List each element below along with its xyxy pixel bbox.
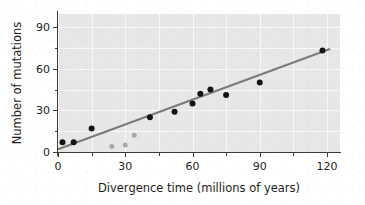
data-point (223, 92, 229, 98)
scatter-plot-figure: 0306090120 0306090 Divergence time (mill… (0, 0, 365, 205)
x-tick-label: 120 (317, 160, 338, 173)
y-tick-label: 0 (43, 146, 50, 159)
y-tick-label: 60 (36, 63, 50, 76)
x-tick-label: 90 (253, 160, 267, 173)
data-point (132, 133, 137, 138)
x-tick-label: 60 (186, 160, 200, 173)
y-axis-title: Number of mutations (10, 22, 24, 145)
data-point (89, 125, 95, 131)
data-point (123, 143, 128, 148)
data-point (190, 100, 196, 106)
x-axis-tick-labels: 0306090120 (55, 160, 338, 173)
x-tick-label: 30 (118, 160, 132, 173)
x-axis-title: Divergence time (millions of years) (98, 181, 300, 195)
chart-canvas: 0306090120 0306090 Divergence time (mill… (0, 0, 365, 205)
data-point (257, 80, 263, 86)
y-tick-label: 90 (36, 21, 50, 34)
data-point (207, 87, 213, 93)
data-point (109, 144, 114, 149)
data-point (147, 114, 153, 120)
data-point (172, 109, 178, 115)
y-axis-tick-labels: 0306090 (36, 21, 50, 159)
data-point (320, 48, 326, 54)
y-tick-label: 30 (36, 104, 50, 117)
data-point (197, 91, 203, 97)
x-tick-label: 0 (55, 160, 62, 173)
data-point (71, 139, 77, 145)
data-point (59, 139, 65, 145)
